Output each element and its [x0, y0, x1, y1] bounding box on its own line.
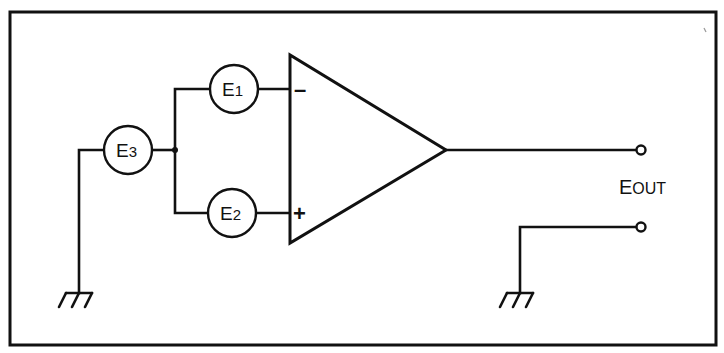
- output-ground-icon: [500, 293, 533, 307]
- source-e3: E3: [104, 126, 152, 174]
- inverting-input-sign: –: [294, 77, 306, 102]
- speck-mark: [704, 28, 706, 32]
- e3-ground-wire: [79, 150, 104, 293]
- source-e1-label: E1: [222, 79, 243, 100]
- op-amp-circuit-diagram: E3 E1 E2 – + EOUT: [0, 0, 724, 353]
- output-ground-wire: [520, 227, 636, 293]
- input-ground-icon: [59, 293, 92, 307]
- eout-label: EOUT: [619, 176, 666, 198]
- junction-dot: [172, 147, 178, 153]
- junction-bus-wire: [175, 89, 210, 213]
- op-amp-triangle: [290, 55, 446, 243]
- source-e3-label: E3: [116, 140, 137, 161]
- output-terminal-bottom: [637, 223, 646, 232]
- op-amp: – +: [290, 55, 446, 243]
- output-terminal-top: [637, 146, 646, 155]
- source-e2: E2: [208, 189, 256, 237]
- noninverting-input-sign: +: [293, 201, 306, 226]
- source-e2-label: E2: [220, 203, 241, 224]
- source-e1: E1: [210, 65, 258, 113]
